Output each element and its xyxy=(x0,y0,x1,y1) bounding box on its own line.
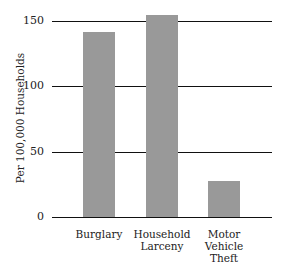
x-label-household-larceny: Household Larceny xyxy=(127,228,197,252)
y-tick-50: 50 xyxy=(14,145,44,158)
x-label-motor-vehicle-theft: Motor Vehicle Theft xyxy=(189,228,259,264)
y-axis-label: Per 100,000 Households xyxy=(14,53,26,183)
x-label-burglary: Burglary xyxy=(64,228,134,240)
y-tick-150: 150 xyxy=(14,14,44,27)
bar-household-larceny xyxy=(146,15,178,217)
x-axis-baseline xyxy=(52,217,272,218)
bar-motor-vehicle-theft xyxy=(208,181,240,217)
bar-burglary xyxy=(83,32,115,217)
bar-chart: Per 100,000 Households 150 100 50 0 Burg… xyxy=(0,0,284,272)
y-tick-0: 0 xyxy=(14,210,44,223)
y-tick-100: 100 xyxy=(14,79,44,92)
